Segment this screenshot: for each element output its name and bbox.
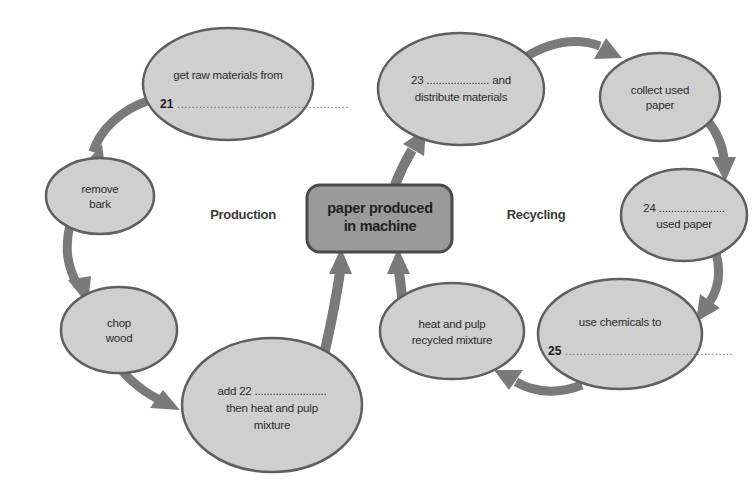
node-remove-bark-line-1: bark <box>89 198 111 210</box>
node-use-chemicals-shape <box>538 279 702 389</box>
node-use-chemicals-blank-dots: ........................................… <box>565 345 733 357</box>
node-used-paper-shape <box>621 169 747 261</box>
node-use-chemicals-blank-number: 25 <box>548 344 562 358</box>
node-heat-pulp-recycled-shape <box>380 283 524 379</box>
node-collect-used-paper[interactable]: collect used paper <box>600 53 720 141</box>
node-distribute-materials-line-0: 23 ..................... and <box>411 74 511 86</box>
paper-cycle-diagram: get raw materials from 21 ..............… <box>0 0 753 483</box>
node-raw-materials[interactable]: get raw materials from 21 ..............… <box>143 28 349 140</box>
node-collect-used-paper-shape <box>600 53 720 141</box>
node-distribute-materials[interactable]: 23 ..................... and distribute … <box>378 33 544 145</box>
node-remove-bark-shape <box>46 158 154 234</box>
node-chop-wood-line-0: chop <box>107 317 131 329</box>
node-add-mixture-line-2: mixture <box>254 419 290 431</box>
node-heat-pulp-recycled[interactable]: heat and pulp recycled mixture <box>380 283 524 379</box>
node-heat-pulp-recycled-line-1: recycled mixture <box>412 334 493 346</box>
section-label-production: Production <box>210 207 276 222</box>
arrow-used-to-chemicals <box>696 253 720 322</box>
node-collect-used-paper-line-1: paper <box>646 99 675 111</box>
node-chop-wood-line-1: wood <box>105 332 133 344</box>
node-used-paper[interactable]: 24 ...................... used paper <box>621 169 747 261</box>
node-distribute-materials-line-1: distribute materials <box>415 91 508 103</box>
node-add-mixture-line-0: add 22 ........................ <box>218 385 327 397</box>
center-box-line-2: in machine <box>344 218 417 234</box>
center-box-paper-produced[interactable]: paper produced in machine <box>307 185 452 252</box>
node-use-chemicals[interactable]: use chemicals to 25 ....................… <box>538 279 733 389</box>
diagram-canvas: get raw materials from 21 ..............… <box>0 0 753 483</box>
section-label-recycling: Recycling <box>507 207 566 222</box>
node-raw-materials-blank-dots: ........................................… <box>177 98 349 110</box>
node-distribute-materials-shape <box>378 33 544 145</box>
node-used-paper-line-1: used paper <box>656 218 712 230</box>
node-remove-bark[interactable]: remove bark <box>46 158 154 234</box>
node-raw-materials-line-0: get raw materials from <box>173 69 282 81</box>
node-used-paper-line-0: 24 ...................... <box>643 202 724 214</box>
node-heat-pulp-recycled-line-0: heat and pulp <box>418 318 485 330</box>
node-raw-materials-blank-number: 21 <box>160 97 174 111</box>
center-box-line-1: paper produced <box>327 200 432 216</box>
node-add-mixture-line-1: then heat and pulp <box>226 402 318 414</box>
node-add-mixture[interactable]: add 22 ........................ then hea… <box>182 338 362 472</box>
node-remove-bark-line-0: remove <box>81 183 118 195</box>
node-raw-materials-shape <box>143 28 313 140</box>
node-chop-wood[interactable]: chop wood <box>61 287 177 373</box>
arrow-distribute-to-collect <box>524 38 622 59</box>
node-collect-used-paper-line-0: collect used <box>631 84 689 96</box>
node-use-chemicals-line-0: use chemicals to <box>579 316 661 328</box>
node-chop-wood-shape <box>61 287 177 373</box>
